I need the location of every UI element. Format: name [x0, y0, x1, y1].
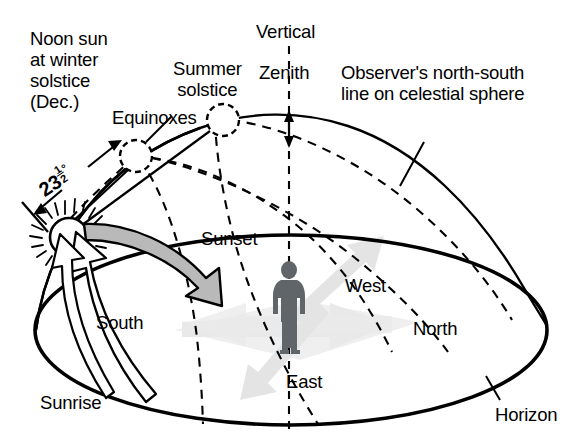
- label-line: solstice: [30, 70, 108, 91]
- label-line: (Dec.): [30, 91, 108, 112]
- celestial-sphere-diagram: Noon sun at winter solstice (Dec.) Summe…: [0, 0, 579, 443]
- label-line: Observer's north-south: [341, 62, 524, 83]
- label-sunset: Sunset: [201, 228, 257, 249]
- label-line: at winter: [30, 49, 108, 70]
- label-vertical: Vertical: [256, 21, 315, 42]
- label-horizon: Horizon: [495, 404, 557, 425]
- label-line: Summer: [173, 58, 242, 79]
- label-east: East: [286, 371, 322, 392]
- label-line: line on celestial sphere: [341, 83, 524, 104]
- equinox-node-circle: [120, 140, 152, 172]
- leader-lines: [146, 116, 500, 400]
- label-line: solstice: [173, 79, 242, 100]
- label-west: West: [345, 275, 386, 296]
- label-sunrise: Sunrise: [40, 392, 101, 413]
- summer-solstice-node-circle: [207, 104, 239, 136]
- equinox-to-sun-line: [72, 170, 128, 222]
- label-north: North: [413, 318, 457, 339]
- label-line: Noon sun: [30, 28, 108, 49]
- label-south: South: [96, 312, 143, 333]
- label-equinoxes: Equinoxes: [112, 107, 197, 128]
- label-observer-north-south-line: Observer's north-south line on celestial…: [341, 62, 524, 104]
- label-zenith: Zenith: [259, 62, 309, 83]
- label-summer-solstice: Summer solstice: [173, 58, 242, 100]
- label-noon-sun-winter-solstice: Noon sun at winter solstice (Dec.): [30, 28, 108, 112]
- leader-horizon: [486, 376, 500, 400]
